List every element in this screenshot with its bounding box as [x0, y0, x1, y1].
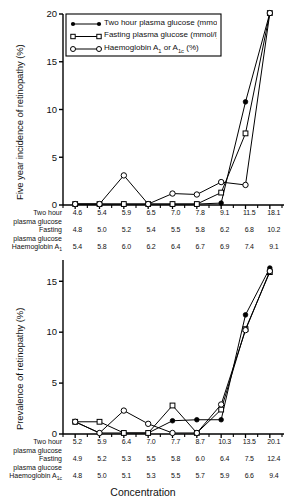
- x-value-cell: 5.8: [163, 455, 188, 464]
- row-label-plasma-glucose-2: plasma glucose: [0, 464, 65, 473]
- data-point-filled-circle: [195, 417, 200, 422]
- row-label-plasma-glucose-1: plasma glucose: [0, 447, 65, 456]
- x-value-cell: 5.0: [90, 226, 115, 235]
- x-value-cell: 5.8: [188, 226, 213, 235]
- open-square-icon: [97, 34, 101, 38]
- data-point-filled-circle: [243, 313, 248, 318]
- table-row: Two hour 4.65.45.96.57.07.89.111.518.1: [0, 209, 286, 218]
- x-value-cell: 5.9: [114, 209, 139, 218]
- x-value-cell: 5.3: [139, 472, 164, 481]
- x-value-cell: 11.5: [237, 209, 262, 218]
- x-value-cell: 9.4: [262, 472, 287, 481]
- x-value-cell: 6.0: [114, 243, 139, 252]
- x-value-cell: 4.8: [65, 472, 90, 481]
- row-label-plasma-glucose-1: plasma glucose: [0, 218, 65, 227]
- data-point-open-square: [121, 431, 126, 436]
- x-value-cell: 6.5: [139, 209, 164, 218]
- data-point-open-circle: [121, 173, 126, 178]
- filled-circle-icon: [71, 22, 75, 26]
- data-point-open-circle: [243, 327, 248, 332]
- x-value-cell: 6.8: [237, 226, 262, 235]
- x-value-cell: 5.4: [139, 226, 164, 235]
- x-axis-value-table-bottom: Two hour 5.25.96.47.07.78.710.313.520.1 …: [0, 438, 286, 481]
- data-point-open-circle: [194, 430, 199, 435]
- data-point-open-square: [121, 202, 126, 207]
- chart-five-year-incidence: Five year incidence of retinopathy (%) 0…: [0, 0, 286, 258]
- x-value-cell: 20.1: [262, 438, 287, 447]
- x-value-cell: 5.5: [163, 226, 188, 235]
- x-value-cell: 5.2: [65, 438, 90, 447]
- row-label-two-hour: Two hour: [0, 438, 65, 447]
- x-value-cell: 5.4: [65, 243, 90, 252]
- x-value-cell: 5.4: [90, 209, 115, 218]
- y-tick-label: 15: [46, 276, 57, 287]
- data-point-open-circle: [170, 191, 175, 196]
- y-tick-label: 10: [46, 104, 57, 115]
- y-tick-label: 20: [46, 8, 57, 19]
- row-values-two-hour: 4.65.45.96.57.07.89.111.518.1: [65, 209, 286, 218]
- row-values-haemoglobin: 5.45.86.06.26.46.76.97.49.1: [65, 243, 286, 252]
- x-value-cell: 12.4: [262, 455, 287, 464]
- data-point-open-circle: [145, 421, 150, 426]
- row-values-fasting: 4.95.25.35.55.86.06.47.512.4: [65, 455, 286, 464]
- y-tick-label: 15: [46, 56, 57, 67]
- x-value-cell: 6.4: [163, 243, 188, 252]
- table-row: Haemoglobin A1 5.45.86.06.26.46.76.97.49…: [0, 243, 286, 252]
- data-point-open-square: [170, 403, 175, 408]
- data-point-open-circle: [218, 179, 223, 184]
- x-value-cell: 10.3: [212, 438, 237, 447]
- row-values-haemoglobin: 4.85.05.15.35.55.75.96.69.4: [65, 472, 286, 481]
- row-label-two-hour: Two hour: [0, 209, 65, 218]
- plot-area-top: 05101520Two hour plasma glucose (mmol/l)…: [0, 0, 286, 215]
- data-point-open-circle: [243, 182, 248, 187]
- x-value-cell: 4.6: [65, 209, 90, 218]
- legend-label: Haemoglobin A1 or A1c (%): [104, 42, 217, 56]
- x-value-cell: 7.0: [139, 438, 164, 447]
- filled-circle-icon: [97, 22, 101, 26]
- x-value-cell: 5.0: [90, 472, 115, 481]
- open-square-icon: [71, 34, 75, 38]
- x-value-cell: 9.1: [262, 243, 287, 252]
- x-value-cell: 6.0: [188, 455, 213, 464]
- row-label-haemoglobin: Haemoglobin A1: [0, 243, 65, 252]
- x-value-cell: 9.1: [212, 209, 237, 218]
- data-point-open-square: [219, 190, 224, 195]
- x-value-cell: 7.0: [163, 209, 188, 218]
- series-line: [75, 271, 270, 433]
- data-point-filled-circle: [170, 418, 175, 423]
- data-point-open-circle: [145, 201, 150, 206]
- x-value-cell: 6.9: [212, 243, 237, 252]
- data-point-open-square: [97, 419, 102, 424]
- x-value-cell: 5.2: [90, 455, 115, 464]
- x-axis-value-table-top: Two hour 4.65.45.96.57.07.89.111.518.1 p…: [0, 209, 286, 252]
- row-label-fasting: Fasting: [0, 226, 65, 235]
- x-value-cell: 5.7: [188, 472, 213, 481]
- x-value-cell: 6.4: [212, 455, 237, 464]
- row-values-fasting: 4.85.05.25.45.55.86.26.810.2: [65, 226, 286, 235]
- data-point-open-circle: [267, 268, 272, 273]
- data-point-filled-circle: [243, 100, 248, 105]
- data-point-open-circle: [97, 201, 102, 206]
- x-value-cell: 7.4: [237, 243, 262, 252]
- plot-area-bottom: 051015: [0, 258, 286, 444]
- data-point-open-square: [170, 202, 175, 207]
- y-tick-label: 5: [52, 377, 57, 388]
- table-row: plasma glucose: [0, 235, 286, 244]
- table-row: Fasting 4.95.25.35.55.86.06.47.512.4: [0, 455, 286, 464]
- x-value-cell: 18.1: [262, 209, 287, 218]
- x-value-cell: 5.5: [163, 472, 188, 481]
- series-line: [75, 272, 270, 433]
- x-value-cell: 4.8: [65, 226, 90, 235]
- x-axis-title: Concentration: [0, 486, 286, 498]
- table-row: Fasting 4.85.05.25.45.55.86.26.810.2: [0, 226, 286, 235]
- x-value-cell: 5.8: [90, 243, 115, 252]
- y-tick-label: 5: [52, 152, 57, 163]
- row-values-two-hour: 5.25.96.47.07.78.710.313.520.1: [65, 438, 286, 447]
- data-point-open-circle: [194, 192, 199, 197]
- x-value-cell: 13.5: [237, 438, 262, 447]
- x-value-cell: 5.2: [114, 226, 139, 235]
- data-point-filled-circle: [219, 417, 224, 422]
- x-value-cell: 8.7: [188, 438, 213, 447]
- data-point-open-square: [146, 431, 151, 436]
- x-value-cell: 6.7: [188, 243, 213, 252]
